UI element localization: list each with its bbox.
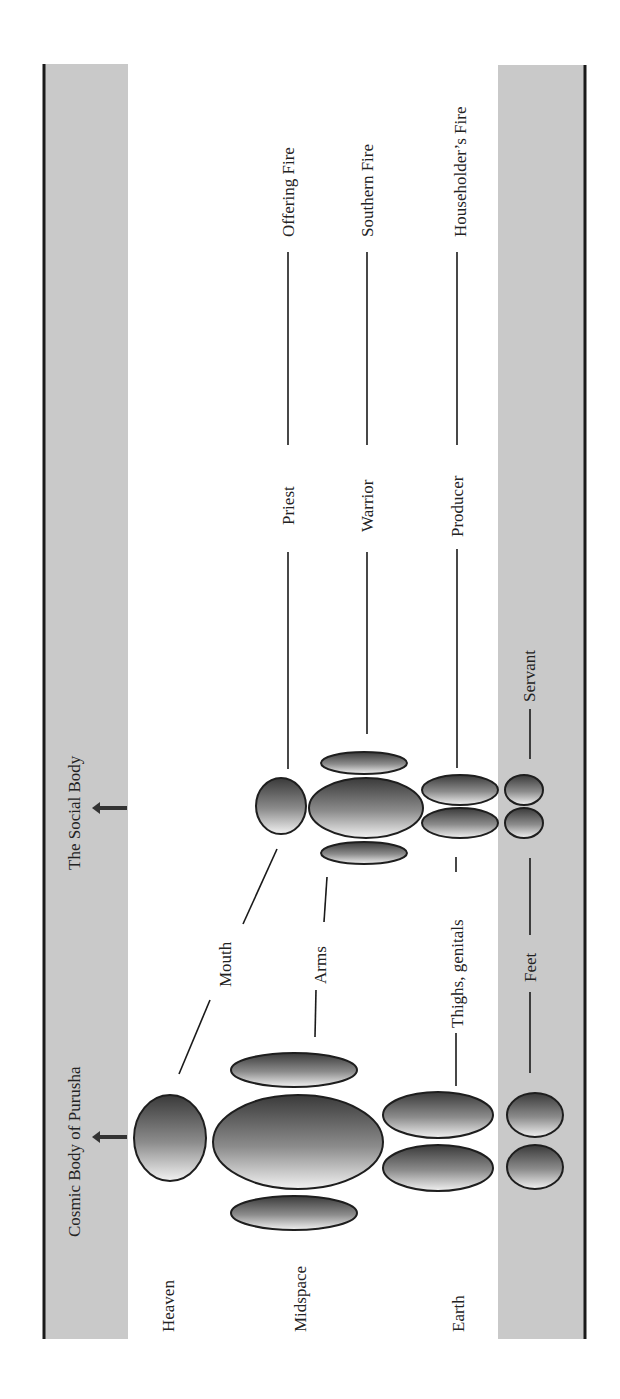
cosmic-body-title: Cosmic Body of Purusha	[65, 1066, 84, 1237]
label-priest: Priest	[279, 486, 298, 525]
cosmic-torso	[213, 1095, 383, 1189]
social-thigh-upper	[422, 775, 498, 805]
label-midspace: Midspace	[291, 1266, 310, 1332]
social-head	[256, 778, 306, 834]
social-arm-lower	[321, 842, 407, 864]
label-offering-fire: Offering Fire	[279, 147, 298, 237]
social-torso	[309, 778, 423, 838]
cosmic-head	[134, 1095, 206, 1181]
cosmic-thigh-lower	[383, 1145, 493, 1191]
cosmic-arm-upper	[231, 1053, 357, 1087]
social-arm-upper	[321, 752, 407, 774]
label-feet: Feet	[521, 952, 540, 982]
purusha-diagram: Cosmic Body of Purusha The Social Body	[0, 0, 620, 1399]
label-mouth: Mouth	[216, 941, 235, 987]
label-householders-fire: Householder’s Fire	[451, 107, 470, 237]
left-band	[44, 64, 128, 1339]
label-warrior: Warrior	[358, 479, 377, 532]
social-foot-upper	[505, 775, 543, 805]
label-earth: Earth	[449, 1295, 468, 1332]
cosmic-foot-lower	[507, 1145, 563, 1189]
label-southern-fire: Southern Fire	[358, 144, 377, 237]
social-foot-lower	[505, 808, 543, 838]
label-servant: Servant	[520, 650, 539, 702]
label-thighs-genitals: Thighs, genitals	[448, 919, 467, 1028]
label-producer: Producer	[448, 475, 467, 537]
cosmic-foot-upper	[507, 1093, 563, 1137]
label-heaven: Heaven	[159, 1280, 178, 1332]
label-arms: Arms	[311, 946, 330, 984]
cosmic-arm-lower	[231, 1196, 357, 1230]
social-thigh-lower	[422, 808, 498, 838]
social-body-title: The Social Body	[65, 755, 84, 870]
cosmic-thigh-upper	[383, 1092, 493, 1138]
